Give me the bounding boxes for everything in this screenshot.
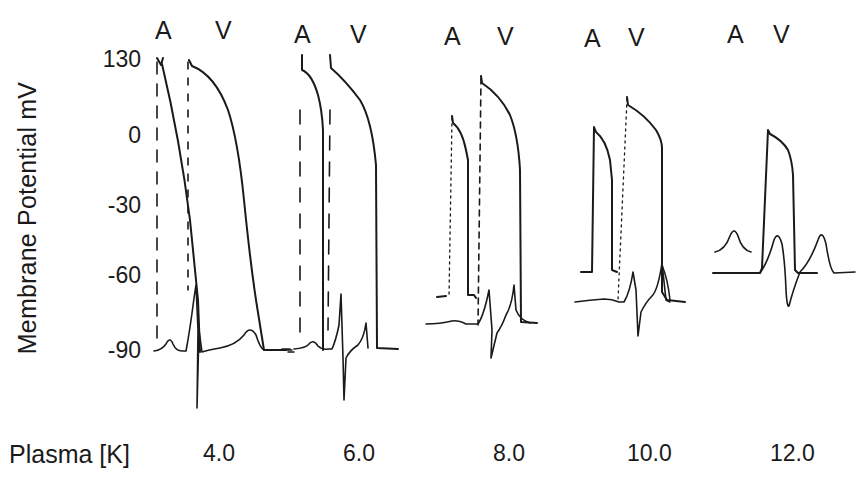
x-axis-title: Plasma [K] bbox=[9, 440, 130, 469]
ventricular-upstroke-dashed bbox=[478, 78, 481, 325]
ecg-trace bbox=[282, 294, 368, 400]
x-category-10: 10.0 bbox=[627, 442, 672, 465]
ventricular-action-potential bbox=[481, 76, 537, 323]
atrial-action-potential bbox=[437, 116, 476, 298]
x-category-8: 8.0 bbox=[493, 442, 525, 465]
x-category-4: 4.0 bbox=[203, 442, 235, 465]
ventricular-action-potential bbox=[713, 130, 817, 273]
atrial-upstroke-dotted bbox=[449, 118, 452, 297]
panel-k4-traces bbox=[154, 58, 294, 408]
panel-k8-traces bbox=[426, 76, 537, 358]
ecg-trace bbox=[575, 263, 670, 336]
ventricular-upstroke-dashed bbox=[328, 110, 330, 330]
atrial-action-potential bbox=[302, 55, 323, 350]
ventricular-action-potential bbox=[627, 97, 685, 302]
panel-k10-traces bbox=[575, 97, 685, 336]
ventricular-upstroke-dotted bbox=[618, 99, 627, 300]
ecg-trace bbox=[154, 285, 264, 408]
action-potential-traces bbox=[0, 0, 858, 488]
x-category-12: 12.0 bbox=[770, 442, 815, 465]
panel-k12-traces bbox=[713, 130, 855, 306]
panel-k6-traces bbox=[282, 55, 398, 400]
atrial-action-potential bbox=[581, 127, 617, 272]
ecg-trace bbox=[760, 235, 855, 306]
baseline-dash bbox=[286, 350, 294, 352]
x-category-6: 6.0 bbox=[343, 442, 375, 465]
atrial-action-potential bbox=[157, 58, 200, 352]
p-wave bbox=[715, 231, 751, 252]
ventricular-action-potential bbox=[189, 60, 286, 350]
